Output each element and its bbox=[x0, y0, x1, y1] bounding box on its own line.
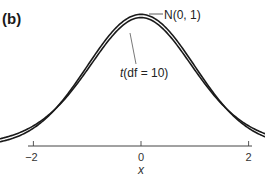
curves-group bbox=[0, 14, 265, 146]
t-annotation-suffix: (df = 10) bbox=[123, 66, 168, 80]
t-annotation: t(df = 10) bbox=[120, 66, 168, 80]
t-leader-line bbox=[130, 33, 136, 64]
density-plot: −4−2024 x N(0, 1) t(df = 10) bbox=[0, 0, 265, 185]
x-tick-label: −2 bbox=[25, 151, 38, 163]
x-axis-ticks: −4−2024 bbox=[0, 141, 265, 163]
normal-annotation: N(0, 1) bbox=[164, 8, 201, 22]
t-distribution-curve bbox=[0, 18, 265, 146]
x-tick-label: 0 bbox=[138, 151, 144, 163]
x-tick-label: 2 bbox=[246, 151, 252, 163]
x-axis-label: x bbox=[137, 163, 145, 177]
normal-curve bbox=[0, 14, 265, 146]
